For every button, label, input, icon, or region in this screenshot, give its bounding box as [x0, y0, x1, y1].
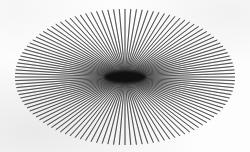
radial-burst-canvas — [0, 0, 250, 152]
radial-burst-figure — [0, 0, 250, 152]
